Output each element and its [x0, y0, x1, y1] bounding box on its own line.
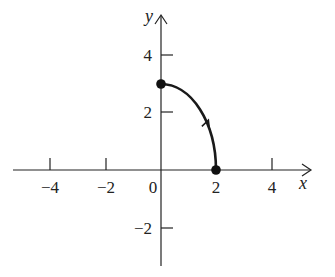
x-tick-label: 4: [268, 178, 277, 197]
x-tick-label: −2: [97, 178, 115, 197]
origin-label: 0: [149, 178, 158, 197]
y-tick-label: 4: [144, 46, 153, 65]
parametric-curve: [161, 84, 216, 170]
y-tick-label: 2: [144, 103, 153, 122]
y-axis-label: y: [143, 6, 153, 26]
y-tick-label: −2: [134, 219, 152, 238]
x-tick-label: −4: [41, 178, 60, 197]
chart-svg: −4 −2 0 2 4 4 2 −2 x y: [0, 0, 335, 277]
x-axis-label: x: [298, 173, 307, 193]
chart-container: −4 −2 0 2 4 4 2 −2 x y: [0, 0, 335, 277]
point-0-3: [156, 79, 166, 89]
point-2-0: [211, 165, 221, 175]
x-tick-label: 2: [212, 178, 221, 197]
